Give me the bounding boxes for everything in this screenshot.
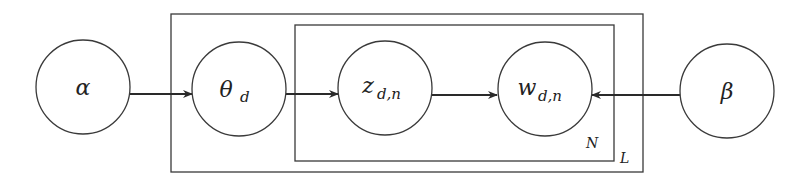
node-w-subscript: d,n: [538, 87, 562, 105]
node-theta-subscript: d: [240, 88, 250, 106]
node-beta-label: β: [720, 79, 734, 104]
node-alpha-label: α: [76, 75, 91, 100]
node-z-label: z: [361, 73, 374, 98]
node-z: z d,n: [338, 41, 432, 135]
node-alpha: α: [36, 40, 130, 134]
plate-label-N: N: [585, 135, 599, 151]
node-theta-label: θ: [219, 77, 232, 102]
node-z-subscript: d,n: [377, 85, 401, 103]
plate-label-L: L: [619, 150, 629, 166]
node-w: w d,n: [498, 42, 592, 136]
lda-plate-diagram: N L α θ d z d,n w d,n β: [0, 0, 810, 184]
node-theta: θ d: [192, 42, 286, 136]
node-w-label: w: [518, 75, 537, 100]
node-beta: β: [680, 44, 774, 138]
